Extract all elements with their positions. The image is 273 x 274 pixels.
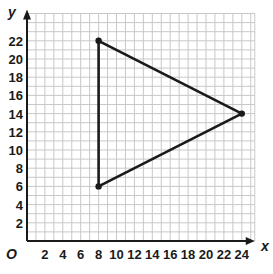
x-tick-label: 24 (235, 247, 250, 262)
x-tick-label: 8 (95, 247, 102, 262)
x-tick-label: 4 (59, 247, 67, 262)
x-tick-label: 20 (199, 247, 213, 262)
y-tick-label: 2 (16, 216, 23, 231)
x-tick-label: 10 (109, 247, 123, 262)
x-tick-label: 16 (163, 247, 177, 262)
x-tick-label: 22 (217, 247, 231, 262)
vertex-point (95, 183, 101, 189)
vertex-point (239, 110, 245, 116)
x-tick-label: 2 (41, 247, 48, 262)
y-tick-label: 4 (16, 198, 24, 213)
coordinate-plane-chart: 24681012141618202224246810121416182022 x… (0, 0, 273, 274)
y-tick-label: 8 (16, 161, 23, 176)
y-tick-label: 10 (9, 143, 23, 158)
y-tick-label: 12 (9, 125, 23, 140)
y-tick-label: 6 (16, 179, 23, 194)
y-axis-label: y (7, 4, 17, 20)
x-tick-label: 12 (127, 247, 141, 262)
y-tick-label: 20 (9, 52, 23, 67)
axes (23, 10, 255, 246)
y-tick-label: 18 (9, 70, 23, 85)
y-axis-arrow-icon (23, 10, 31, 20)
y-tick-label: 22 (9, 34, 23, 49)
x-axis-label: x (260, 238, 270, 254)
vertex-point (95, 38, 101, 44)
x-tick-label: 6 (77, 247, 84, 262)
x-tick-label: 18 (181, 247, 195, 262)
y-tick-label: 14 (9, 107, 24, 122)
grid-lines (27, 14, 255, 242)
y-tick-label: 16 (9, 88, 23, 103)
origin-label: O (6, 246, 17, 262)
x-tick-label: 14 (145, 247, 160, 262)
